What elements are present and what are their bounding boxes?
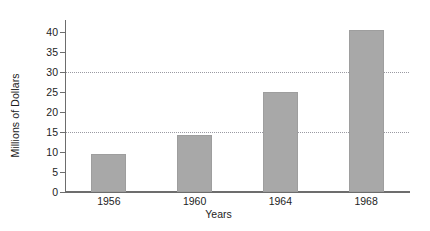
y-tick-mark-15 [60, 132, 66, 133]
y-tick-label-10: 10 [38, 147, 58, 158]
y-tick-mark-35 [60, 52, 66, 53]
y-tick-mark-5 [60, 172, 66, 173]
y-tick-label-5: 5 [38, 167, 58, 178]
x-axis-title: Years [66, 208, 371, 220]
y-tick-mark-10 [60, 152, 66, 153]
y-tick-mark-40 [60, 32, 66, 33]
y-tick-mark-25 [60, 92, 66, 93]
x-tick-label-1956: 1956 [79, 196, 139, 207]
bar-1964 [263, 92, 298, 192]
x-tick-label-1960: 1960 [165, 196, 225, 207]
y-tick-label-30: 30 [38, 67, 58, 78]
plot-area [66, 24, 409, 192]
x-tick-label-1964: 1964 [250, 196, 310, 207]
y-tick-label-15: 15 [38, 127, 58, 138]
bar-chart: Millions of Dollars 0510152025303540 195… [0, 0, 430, 231]
y-tick-label-40: 40 [38, 27, 58, 38]
bar-1956 [91, 154, 126, 192]
y-tick-label-35: 35 [38, 47, 58, 58]
y-tick-label-20: 20 [38, 107, 58, 118]
x-tick-label-1968: 1968 [336, 196, 396, 207]
y-axis-title-text: Millions of Dollars [9, 73, 21, 157]
y-tick-mark-0 [60, 192, 66, 193]
bar-1960 [177, 135, 212, 192]
y-axis-tick-labels: 0510152025303540 [38, 24, 58, 192]
y-tick-label-0: 0 [38, 187, 58, 198]
y-tick-mark-20 [60, 112, 66, 113]
y-tick-mark-30 [60, 72, 66, 73]
bar-1968 [349, 30, 384, 192]
y-tick-label-25: 25 [38, 87, 58, 98]
